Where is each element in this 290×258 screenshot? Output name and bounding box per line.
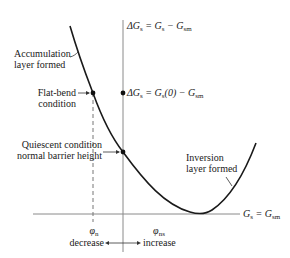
accumulation-label: Accumulation layer formed [14,48,71,70]
flatband-arrowhead [86,91,90,95]
quiescent-arrowhead [116,150,120,154]
flatband-point [91,91,96,96]
left-arrowhead-icon [105,241,109,245]
vertical-axis-label: ΔGs = Gs − Gsm [127,20,192,35]
increase-label: increase [143,237,176,248]
surface-potential-point-label: ΔGs = Gs(0) − Gsm [127,87,203,102]
quiescent-label: Quiescent condition normal barrier heigh… [8,139,102,161]
flatband-label: Flat-bend condition [28,87,76,109]
energy-curve [70,26,256,214]
right-arrowhead-icon [137,241,141,245]
inversion-label: Inversion layer formed [186,152,237,174]
axis-point [121,91,126,96]
decrease-label: decrease [50,237,104,248]
accumulation-leader [70,52,78,57]
horizontal-axis-label: Gs = Gsm [243,208,280,223]
quiescent-point [121,150,126,155]
inversion-leader [226,177,232,186]
